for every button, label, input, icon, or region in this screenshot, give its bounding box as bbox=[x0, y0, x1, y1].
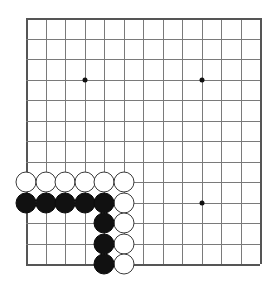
white-stone-c3-r9[interactable] bbox=[55, 172, 76, 193]
go-board-canvas[interactable] bbox=[0, 0, 280, 293]
black-stone-c2-r10[interactable] bbox=[35, 192, 56, 213]
black-stone-c5-r13[interactable] bbox=[94, 254, 115, 275]
black-stone-c5-r11[interactable] bbox=[94, 213, 115, 234]
star-point-bottom-right-icon bbox=[199, 200, 204, 205]
white-stone-c4-r9[interactable] bbox=[74, 172, 95, 193]
white-stone-c2-r9[interactable] bbox=[35, 172, 56, 193]
stone-layer bbox=[0, 0, 280, 293]
black-stone-c4-r10[interactable] bbox=[74, 192, 95, 213]
black-stone-c5-r10[interactable] bbox=[94, 192, 115, 213]
white-stone-c6-r11[interactable] bbox=[113, 213, 134, 234]
white-stone-c6-r10[interactable] bbox=[113, 192, 134, 213]
white-stone-c5-r9[interactable] bbox=[94, 172, 115, 193]
white-stone-c6-r12[interactable] bbox=[113, 233, 134, 254]
white-stone-c6-r13[interactable] bbox=[113, 254, 134, 275]
white-stone-c6-r9[interactable] bbox=[113, 172, 134, 193]
star-point-top-left-icon bbox=[82, 77, 87, 82]
star-point-top-right-icon bbox=[199, 77, 204, 82]
black-stone-c5-r12[interactable] bbox=[94, 233, 115, 254]
black-stone-c3-r10[interactable] bbox=[55, 192, 76, 213]
black-stone-c1-r10[interactable] bbox=[16, 192, 37, 213]
white-stone-c1-r9[interactable] bbox=[16, 172, 37, 193]
